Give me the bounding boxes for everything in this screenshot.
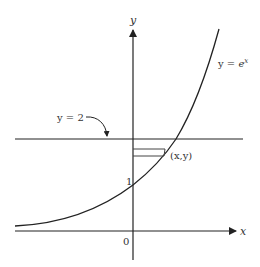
point-label: (x,y) xyxy=(170,150,192,161)
y-axis-label: y xyxy=(129,14,137,27)
exponential-curve xyxy=(15,29,219,226)
curve-label: y = ex xyxy=(217,57,248,69)
x-axis-label: x xyxy=(240,225,247,238)
pointer-arrow-icon xyxy=(86,117,107,136)
horizontal-line-label: y = 2 xyxy=(56,112,84,123)
diagram-canvas: y x 0 1 y = 2 (x,y) y = ex xyxy=(0,0,260,267)
y-intercept-label: 1 xyxy=(126,176,132,187)
origin-label: 0 xyxy=(123,236,129,247)
